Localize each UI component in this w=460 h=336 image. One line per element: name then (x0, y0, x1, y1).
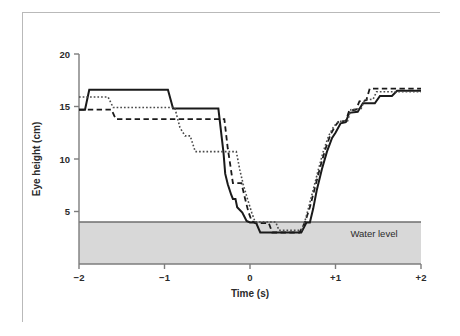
x-tick-label-0: −2 (74, 272, 85, 283)
y-tick-label-10: 10 (59, 154, 70, 165)
x-tick-label-1: −1 (159, 272, 171, 283)
plot-background (23, 13, 441, 323)
x-axis-title: Time (s) (231, 288, 269, 299)
figure-root: 5101520 −2−10+1+2 Time (s) Eye height (c… (0, 0, 460, 336)
y-axis-title: Eye height (cm) (31, 122, 42, 196)
water-level-label: Water level (350, 228, 397, 239)
chart-annotations: Water level (350, 228, 397, 239)
x-tick-label-2: 0 (247, 272, 252, 283)
figure-border: 5101520 −2−10+1+2 Time (s) Eye height (c… (22, 12, 440, 322)
y-tick-label-5: 5 (65, 206, 71, 217)
eye-height-line-chart: 5101520 −2−10+1+2 Time (s) Eye height (c… (23, 13, 441, 323)
x-tick-label-4: +2 (416, 272, 427, 283)
x-tick-label-3: +1 (330, 272, 342, 283)
y-tick-label-20: 20 (59, 49, 70, 60)
y-tick-label-15: 15 (59, 101, 70, 112)
